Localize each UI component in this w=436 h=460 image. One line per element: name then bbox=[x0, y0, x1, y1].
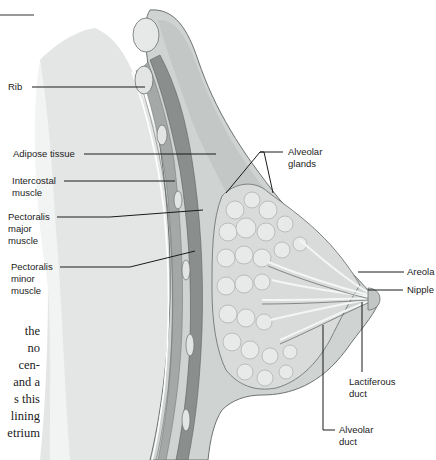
body-text-line: cen- bbox=[0, 357, 40, 374]
clipped-body-text: the no cen- and a s this lining etrium bbox=[0, 323, 40, 442]
anatomy-figure: Rib Adipose tissue Intercostal muscle Pe… bbox=[0, 0, 436, 460]
rib-1 bbox=[133, 18, 159, 52]
body-text-line: etrium bbox=[0, 425, 40, 442]
label-rib: Rib bbox=[8, 81, 22, 93]
label-areola: Areola bbox=[407, 266, 434, 278]
body-text-line: s this bbox=[0, 391, 40, 408]
rib-7 bbox=[182, 409, 190, 431]
label-pectoralis-minor-muscle: Pectoralis minor muscle bbox=[11, 261, 53, 297]
label-adipose-tissue: Adipose tissue bbox=[13, 148, 75, 160]
nipple-shape bbox=[368, 288, 380, 310]
rib-3 bbox=[157, 125, 167, 145]
label-lactiferous-duct: Lactiferous duct bbox=[349, 376, 395, 400]
rib-6 bbox=[186, 334, 194, 356]
label-nipple: Nipple bbox=[407, 284, 434, 296]
body-text-line: the bbox=[0, 323, 40, 340]
label-alveolar-duct: Alveolar duct bbox=[339, 424, 373, 448]
label-alveolar-glands: Alveolar glands bbox=[288, 146, 322, 170]
rib-5 bbox=[182, 260, 190, 280]
rib-2 bbox=[135, 66, 153, 94]
rib-4 bbox=[174, 191, 182, 209]
label-intercostal-muscle: Intercostal muscle bbox=[12, 175, 56, 199]
body-text-line: lining bbox=[0, 408, 40, 425]
label-pectoralis-major-muscle: Pectoralis major muscle bbox=[8, 211, 50, 247]
body-text-line: no bbox=[0, 340, 40, 357]
body-text-line: and a bbox=[0, 374, 40, 391]
